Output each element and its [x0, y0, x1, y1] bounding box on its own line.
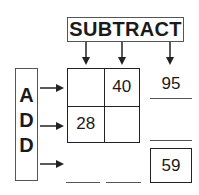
column-total-1-underline [66, 182, 100, 183]
grid-cell-r1c1[interactable] [68, 69, 104, 106]
grand-total-box: 59 [150, 148, 192, 183]
number-grid: 40 28 [67, 68, 140, 143]
row-total-2-underline [150, 140, 192, 141]
add-letter-d2: D [19, 133, 33, 158]
column-total-2-underline [106, 182, 141, 183]
column-total-1[interactable] [66, 162, 100, 182]
row-total-2[interactable] [150, 118, 192, 138]
subtract-label-box: SUBTRACT [67, 17, 184, 42]
row-total-1-underline [150, 98, 192, 99]
add-letter-a: A [19, 83, 33, 108]
grid-cell-r2c1[interactable]: 28 [68, 106, 104, 143]
grid-cell-r1c2[interactable]: 40 [104, 69, 140, 106]
grid-cell-r2c2[interactable] [104, 106, 140, 143]
add-label-box: A D D [15, 68, 38, 181]
column-total-2[interactable] [106, 162, 141, 182]
add-letter-d1: D [19, 108, 33, 133]
grand-total[interactable]: 59 [162, 156, 181, 176]
row-total-1[interactable]: 95 [150, 74, 192, 94]
subtract-label: SUBTRACT [69, 18, 181, 41]
